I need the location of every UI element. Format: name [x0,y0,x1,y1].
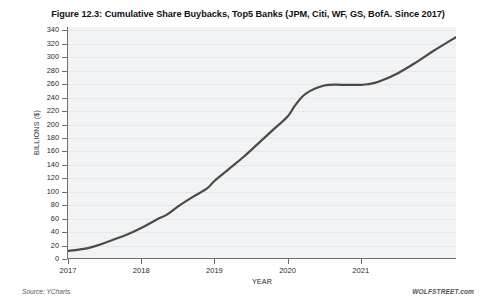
y-tick-label: 40 [19,228,59,236]
x-tick-mark [214,259,215,264]
y-tick-mark [62,125,67,126]
y-tick-label: 0 [19,255,59,263]
x-tick-label: 2021 [338,266,384,275]
chart-title: Figure 12.3: Cumulative Share Buybacks, … [0,9,496,19]
x-tick-mark [361,259,362,264]
figure-container: Figure 12.3: Cumulative Share Buybacks, … [0,0,496,307]
x-tick-label: 2018 [118,266,164,275]
y-tick-mark [62,57,67,58]
y-axis-title: BILLIONS ($) [32,73,41,193]
plot-area [68,27,456,259]
x-tick-mark [68,259,69,264]
y-tick-mark [62,219,67,220]
series-line-cumulative-buybacks [68,37,456,251]
y-tick-mark [62,232,67,233]
brand-watermark: WOLFSTREET.com [412,288,474,295]
y-tick-mark [62,259,67,260]
y-tick-mark [62,98,67,99]
y-tick-label: 20 [19,242,59,250]
y-tick-mark [62,192,67,193]
line-series-svg [68,27,456,259]
y-tick-mark [62,71,67,72]
y-tick-mark [62,111,67,112]
x-tick-mark [288,259,289,264]
y-axis-line [67,27,68,259]
y-tick-mark [62,151,67,152]
y-tick-label: 300 [19,53,59,61]
y-tick-mark [62,30,67,31]
source-note: Source: YCharts [22,288,70,295]
y-tick-mark [62,246,67,247]
y-tick-label: 320 [19,40,59,48]
x-tick-label: 2020 [265,266,311,275]
x-axis-line [67,258,456,259]
y-tick-label: 80 [19,201,59,209]
y-tick-label: 340 [19,26,59,34]
y-tick-mark [62,138,67,139]
y-tick-mark [62,44,67,45]
y-tick-mark [62,178,67,179]
x-tick-label: 2017 [45,266,91,275]
y-tick-label: 60 [19,215,59,223]
x-tick-label: 2019 [191,266,237,275]
y-tick-mark [62,84,67,85]
x-tick-mark [141,259,142,264]
y-tick-mark [62,165,67,166]
x-axis-title: YEAR [68,277,456,286]
y-tick-mark [62,205,67,206]
